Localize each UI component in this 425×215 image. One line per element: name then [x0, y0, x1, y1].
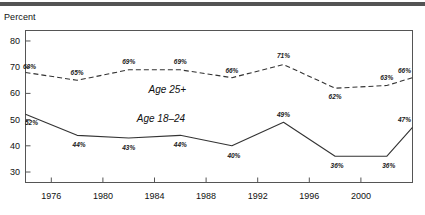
data-point-label: 36% [331, 162, 344, 169]
data-point-label: 65% [71, 69, 84, 76]
data-point-label: 66% [398, 66, 411, 73]
data-point-label: 36% [382, 162, 395, 169]
chart-canvas [0, 0, 425, 215]
series-annotation-1: Age 25+ [149, 84, 187, 95]
data-point-label: 62% [329, 93, 342, 100]
line-chart: 3040506070801976198019841988199219962000… [0, 0, 425, 215]
data-point-label: 44% [73, 141, 86, 148]
data-point-label: 69% [174, 57, 187, 64]
y-axis-tick-label: 30 [2, 167, 20, 177]
data-point-label: 68% [23, 63, 36, 70]
x-axis-tick-label: 1996 [289, 191, 329, 201]
data-point-label: 71% [277, 51, 290, 58]
x-axis-tick-label: 1992 [238, 191, 278, 201]
x-axis-tick-label: 1976 [31, 191, 71, 201]
data-point-label: 43% [122, 143, 135, 150]
y-axis-tick-label: 70 [2, 62, 20, 72]
y-axis-tick-label: 50 [2, 115, 20, 125]
series-line-2 [26, 114, 413, 156]
data-point-label: 63% [380, 73, 393, 80]
x-axis-tick-label: 1980 [83, 191, 123, 201]
data-point-label: 47% [398, 116, 411, 123]
plot-frame [26, 31, 413, 183]
y-axis-tick-label: 60 [2, 88, 20, 98]
data-point-label: 40% [227, 151, 240, 158]
data-point-label: 66% [225, 66, 238, 73]
x-axis-tick-label: 1988 [186, 191, 226, 201]
x-axis-tick-label: 1984 [135, 191, 175, 201]
data-point-label: 44% [174, 141, 187, 148]
y-axis-tick-label: 40 [2, 141, 20, 151]
data-point-label: 52% [25, 119, 38, 126]
y-axis-tick-label: 80 [2, 36, 20, 46]
series-annotation-2: Age 18–24 [137, 113, 185, 124]
data-point-label: 69% [122, 57, 135, 64]
data-point-label: 49% [277, 111, 290, 118]
x-axis-tick-label: 2000 [341, 191, 381, 201]
